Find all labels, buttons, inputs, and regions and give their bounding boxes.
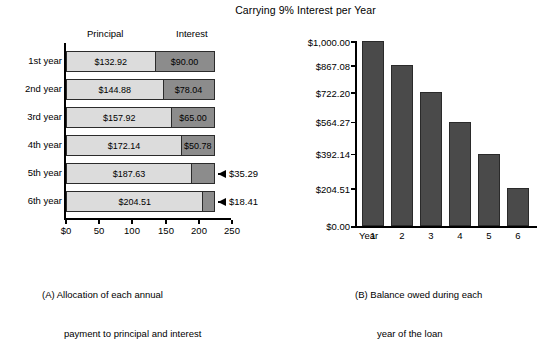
panel-b-caption-line-2: year of the loan	[355, 327, 482, 340]
panel-a-x-tick-label-50: 50	[94, 225, 105, 236]
panel-b-x-tick-label-3: 3	[428, 230, 433, 241]
panel-a-interest-segment-5[interactable]	[191, 163, 215, 184]
panel-b-bar-year-6[interactable]	[507, 188, 529, 226]
panel-a-principal-segment-3[interactable]: $157.92	[66, 107, 171, 128]
panel-a-interest-segment-4[interactable]: $50.78	[181, 135, 215, 156]
panel-b-x-axis-line	[355, 226, 537, 228]
panel-a-principal-segment-5[interactable]: $187.63	[66, 163, 191, 184]
panel-a-caption-line-2: payment to principal and interest	[42, 327, 201, 340]
column-header-principal: Principal	[87, 28, 123, 39]
panel-b-y-tick-564	[351, 122, 356, 124]
panel-b-y-tick-label-1000: $1,000.00	[308, 37, 350, 48]
panel-a-row-label-5: 5th year	[16, 167, 62, 178]
panel-b-x-tick-label-4: 4	[457, 230, 462, 241]
panel-a-principal-segment-1[interactable]: $132.92	[66, 51, 155, 72]
panel-a-callout-label-6: $18.41	[229, 196, 258, 207]
panel-b-y-tick-label-722: $722.20	[316, 88, 350, 99]
panel-a-caption: (A) Allocation of each annual payment to…	[42, 262, 201, 343]
panel-b-y-tick-label-204: $204.51	[316, 184, 350, 195]
panel-b-y-tick-867	[351, 65, 356, 67]
panel-a-interest-segment-1[interactable]: $90.00	[155, 51, 215, 72]
panel-a-x-tick-0	[65, 220, 67, 224]
panel-a-x-tick-100	[131, 220, 133, 224]
panel-a-bar-row-4[interactable]: $172.14 $50.78	[66, 135, 215, 156]
panel-a-bar-row-3[interactable]: $157.92 $65.00	[66, 107, 215, 128]
arrow-left-icon	[218, 170, 226, 178]
panel-a-x-tick-label-150: 150	[158, 225, 174, 236]
panel-a-callout-label-5: $35.29	[229, 168, 258, 179]
panel-b-bar-year-3[interactable]	[420, 92, 442, 226]
panel-b-x-tick-label-5: 5	[486, 230, 491, 241]
panel-b-y-tick-204	[351, 188, 356, 190]
panel-a-allocation-chart: Principal Interest 1st year 2nd year 3rd…	[0, 0, 272, 306]
panel-a-x-tick-250	[231, 220, 233, 224]
panel-a-bar-row-1[interactable]: $132.92 $90.00	[66, 51, 215, 72]
panel-a-principal-segment-6[interactable]: $204.51	[66, 191, 202, 212]
panel-a-interest-segment-3[interactable]: $65.00	[171, 107, 214, 128]
panel-a-row-label-3: 3rd year	[16, 111, 62, 122]
panel-a-row-label-1: 1st year	[16, 55, 62, 66]
panel-a-principal-segment-2[interactable]: $144.88	[66, 79, 163, 100]
column-header-interest: Interest	[176, 28, 208, 39]
panel-b-x-tick-label-6: 6	[515, 230, 520, 241]
panel-a-bar-row-6[interactable]: $204.51	[66, 191, 215, 212]
panel-a-x-tick-label-250: 250	[224, 225, 240, 236]
panel-b-caption: (B) Balance owed during each year of the…	[355, 262, 482, 343]
panel-a-row-label-2: 2nd year	[16, 83, 62, 94]
panel-a-x-tick-150	[165, 220, 167, 224]
panel-b-caption-line-1: (B) Balance owed during each	[355, 288, 482, 301]
panel-a-x-axis-line	[64, 218, 231, 220]
panel-b-y-tick-1000	[351, 41, 356, 43]
panel-a-caption-line-1: (A) Allocation of each annual	[42, 288, 201, 301]
panel-a-row-label-6: 6th year	[16, 195, 62, 206]
panel-b-y-tick-392	[351, 154, 356, 156]
panel-b-bar-year-1[interactable]	[362, 41, 384, 226]
panel-b-y-tick-label-0: $0.00	[326, 221, 350, 232]
panel-b-y-tick-722	[351, 92, 356, 94]
panel-a-x-tick-label-200: 200	[191, 225, 207, 236]
panel-a-principal-segment-4[interactable]: $172.14	[66, 135, 181, 156]
panel-a-x-tick-200	[198, 220, 200, 224]
panel-b-y-tick-label-564: $564.27	[316, 117, 350, 128]
panel-b-y-tick-label-867: $867.08	[316, 61, 350, 72]
panel-a-callout-interest-6: $18.41	[218, 196, 258, 207]
panel-a-callout-interest-5: $35.29	[218, 168, 258, 179]
panel-b-y-axis-line	[355, 41, 357, 227]
panel-a-bar-row-2[interactable]: $144.88 $78.04	[66, 79, 215, 100]
panel-b-bar-year-2[interactable]	[391, 65, 413, 226]
panel-b-y-tick-label-392: $392.14	[316, 149, 350, 160]
panel-a-x-tick-50	[98, 220, 100, 224]
panel-b-x-tick-label-2: 2	[399, 230, 404, 241]
panel-a-row-label-4: 4th year	[16, 139, 62, 150]
panel-b-bar-year-5[interactable]	[478, 154, 500, 227]
panel-b-balance-chart: $1,000.00 $867.08 $722.20 $564.27 $392.1…	[272, 0, 539, 306]
arrow-left-icon	[218, 198, 226, 206]
panel-b-y-tick-0	[351, 226, 356, 228]
panel-a-interest-segment-6[interactable]	[202, 191, 214, 212]
panel-b-bar-year-4[interactable]	[449, 122, 471, 226]
panel-a-bar-row-5[interactable]: $187.63	[66, 163, 215, 184]
panel-a-x-tick-label-0: $0	[61, 225, 72, 236]
panel-a-x-tick-label-100: 100	[124, 225, 140, 236]
panel-a-interest-segment-2[interactable]: $78.04	[163, 79, 215, 100]
panel-b-x-tick-label-1: 1	[370, 230, 375, 241]
